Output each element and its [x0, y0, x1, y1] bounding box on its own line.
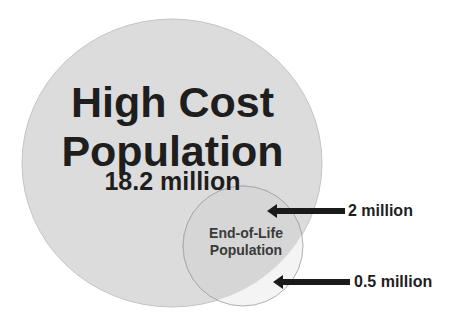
end-of-life-title-line1: End-of-Life — [185, 225, 307, 242]
high-cost-title-line1: High Cost — [0, 78, 345, 127]
end-of-life-title-line2: Population — [185, 242, 307, 259]
high-cost-value: 18.2 million — [0, 167, 345, 195]
outside-annotation: 0.5 million — [354, 272, 432, 292]
high-cost-title: High Cost Population — [0, 78, 345, 176]
end-of-life-title: End-of-Life Population — [185, 225, 307, 259]
overlap-annotation: 2 million — [348, 201, 413, 221]
